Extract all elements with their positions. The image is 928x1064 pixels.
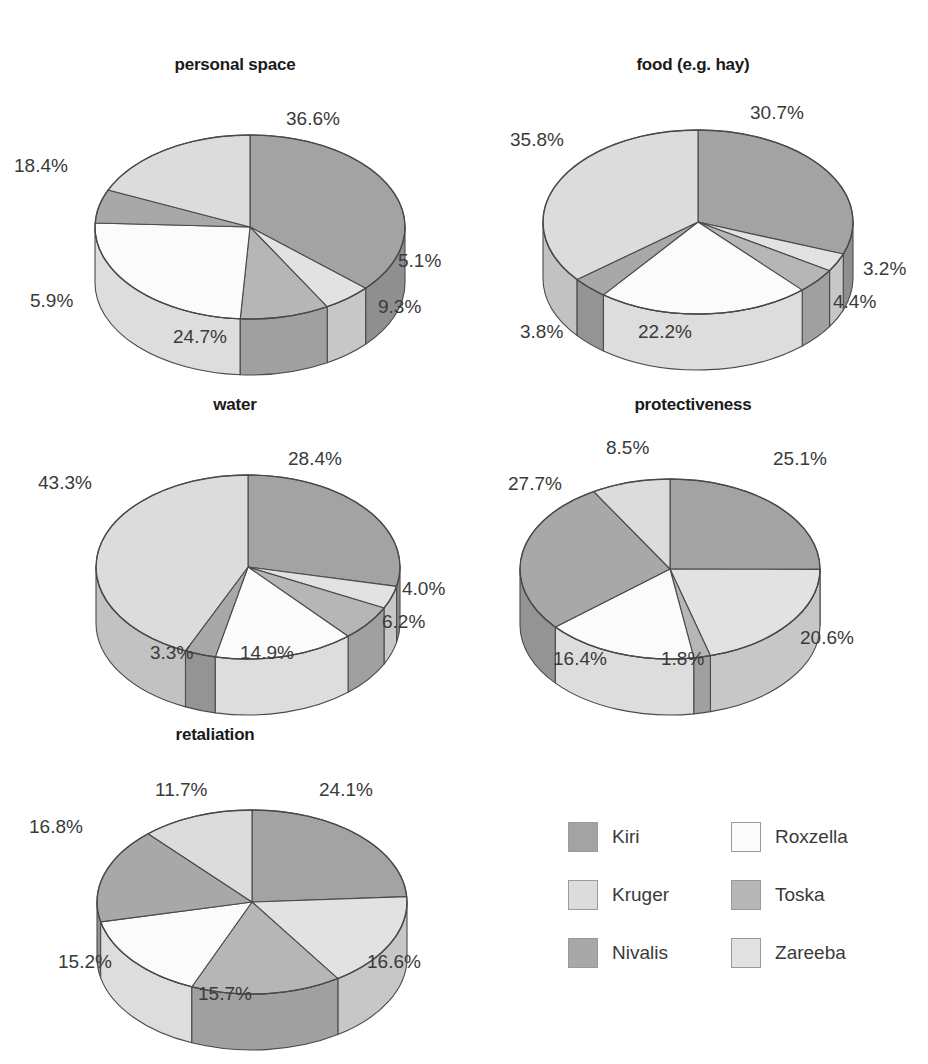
slice-label: 11.7% [155,779,207,801]
legend-entry-kiri: Kiri [568,822,669,852]
legend: Kiri Roxzella Kruger Toska Nivalis Zaree… [568,822,848,968]
slice-label: 25.1% [773,448,827,470]
slice-label: 24.1% [319,779,373,801]
slice-label: 18.4% [14,155,68,177]
legend-label: Kruger [612,884,669,906]
slice-label: 24.7% [173,326,227,348]
slice-label: 22.2% [638,321,692,343]
legend-entry-zareeba: Zareeba [731,938,848,968]
slice-label: 20.6% [800,627,854,649]
slice-label: 3.8% [520,321,563,343]
legend-entry-roxzella: Roxzella [731,822,848,852]
slice-label: 8.5% [606,437,649,459]
slice-label: 6.2% [382,611,425,633]
legend-label: Zareeba [775,942,846,964]
legend-swatch-icon [731,822,761,852]
slice-label: 5.1% [398,250,441,272]
slice-label: 3.2% [863,258,906,280]
legend-entry-toska: Toska [731,880,848,910]
slice-label: 30.7% [750,102,804,124]
legend-label: Roxzella [775,826,848,848]
chart-protectiveness: protectiveness 25.1% 20.6% 1.8% 16.4% 27… [458,395,928,695]
legend-label: Toska [775,884,825,906]
pie-canvas [0,417,470,697]
slice-label: 16.4% [553,648,607,670]
legend-label: Kiri [612,826,639,848]
legend-entry-nivalis: Nivalis [568,938,669,968]
slice-label: 16.6% [367,951,421,973]
slice-label: 4.0% [402,578,445,600]
slice-label: 15.2% [58,951,112,973]
slice-label: 1.8% [661,648,704,670]
slice-label: 5.9% [30,290,73,312]
chart-title: protectiveness [458,395,928,415]
slice-label: 35.8% [510,129,564,151]
legend-swatch-icon [568,938,598,968]
slice-label: 3.3% [150,642,193,664]
chart-personal-space: personal space 36.6% 5.1% 9.3% 24.7% 5.9… [0,55,470,365]
slice-label: 27.7% [508,473,562,495]
pie-chart-figure: personal space 36.6% 5.1% 9.3% 24.7% 5.9… [0,0,928,1064]
slice-label: 43.3% [38,472,92,494]
legend-swatch-icon [731,880,761,910]
chart-water: water 28.4% 4.0% 6.2% 14.9% 3.3% 43.3% [0,395,470,695]
pie-canvas [0,77,470,367]
chart-title: food (e.g. hay) [458,55,928,75]
slice-label: 15.7% [198,983,252,1005]
slice-label: 14.9% [240,642,294,664]
slice-label: 16.8% [29,816,83,838]
chart-title: retaliation [0,725,450,745]
legend-swatch-icon [731,938,761,968]
chart-retaliation: retaliation 24.1% 16.6% 15.7% 15.2% 16.8… [0,725,450,1035]
chart-title: water [0,395,470,415]
legend-label: Nivalis [612,942,668,964]
chart-title: personal space [0,55,470,75]
slice-label: 28.4% [288,448,342,470]
slice-label: 36.6% [286,108,340,130]
chart-food: food (e.g. hay) 30.7% 3.2% 4.4% 22.2% 3.… [458,55,928,365]
legend-swatch-icon [568,880,598,910]
legend-entry-kruger: Kruger [568,880,669,910]
legend-swatch-icon [568,822,598,852]
slice-label: 9.3% [378,296,421,318]
slice-label: 4.4% [833,291,876,313]
